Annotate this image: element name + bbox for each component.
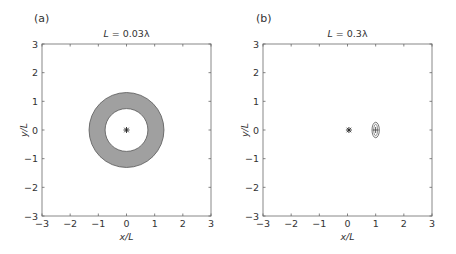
- x-tick-label: 1: [152, 218, 158, 229]
- x-tick-label: 1: [373, 218, 379, 229]
- x-tick-label: 2: [401, 218, 407, 229]
- x-tick-label: 3: [208, 218, 214, 229]
- y-tick-label: −1: [24, 153, 38, 164]
- panel-a: (a)L = 0.03λ−3−2−10123−3−2−10123x/Ly/L: [18, 12, 214, 242]
- x-tick-label: −1: [312, 218, 326, 229]
- y-tick-label: 2: [253, 67, 259, 78]
- x-tick-label: 0: [344, 218, 350, 229]
- y-axis-label: y/L: [18, 123, 29, 138]
- x-tick-label: 2: [180, 218, 186, 229]
- x-tick-label: −2: [63, 218, 77, 229]
- chart-title: L = 0.3λ: [327, 28, 367, 39]
- y-tick-label: 1: [32, 96, 38, 107]
- panel-label: (b): [256, 12, 272, 25]
- y-tick-label: 0: [253, 125, 259, 136]
- y-tick-label: −2: [245, 182, 259, 193]
- figure: (a)L = 0.03λ−3−2−10123−3−2−10123x/Ly/L (…: [0, 0, 456, 254]
- y-axis-label: y/L: [239, 123, 250, 138]
- panel-label: (a): [34, 12, 49, 25]
- y-tick-label: −3: [245, 211, 259, 222]
- y-tick-label: 2: [32, 67, 38, 78]
- y-tick-label: 3: [253, 39, 259, 50]
- star-marker: [346, 127, 352, 133]
- x-axis-label: x/L: [339, 231, 354, 242]
- x-axis-label: x/L: [118, 231, 133, 242]
- y-tick-label: 3: [32, 39, 38, 50]
- x-tick-label: 3: [429, 218, 435, 229]
- x-tick-label: −1: [91, 218, 105, 229]
- y-tick-label: 1: [253, 96, 259, 107]
- y-tick-label: −3: [24, 211, 38, 222]
- star-marker: [124, 127, 130, 133]
- y-tick-label: −1: [245, 153, 259, 164]
- x-tick-label: 0: [123, 218, 129, 229]
- y-tick-label: 0: [32, 125, 38, 136]
- chart-title: L = 0.03λ: [103, 28, 149, 39]
- y-tick-label: −2: [24, 182, 38, 193]
- x-tick-label: −2: [284, 218, 298, 229]
- panel-b: (b)L = 0.3λ−3−2−10123−3−2−10123x/Ly/L: [239, 12, 435, 242]
